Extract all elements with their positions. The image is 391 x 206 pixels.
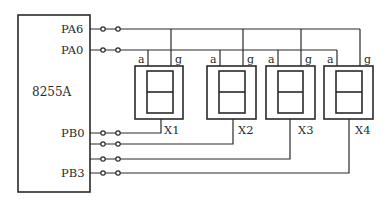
circuit-diagram: 8255A PA6 PA0 PB0 PB3 [0, 0, 391, 206]
terminal-circle-icon [116, 48, 120, 52]
pin-label-a: a [327, 53, 334, 66]
pin-label-a: a [138, 53, 145, 66]
pin-label-g: g [247, 53, 254, 66]
chip-label: 8255A [32, 85, 72, 99]
port-label-pa6: PA6 [61, 22, 83, 36]
chip-8255a: 8255A PA6 PA0 PB0 PB3 [18, 15, 90, 192]
display-label: X1 [164, 123, 180, 137]
terminal-circle-icon [101, 171, 105, 175]
terminal-circle-icon [101, 131, 105, 135]
port-label-pb3: PB3 [61, 166, 85, 180]
terminal-circle-icon [116, 157, 120, 161]
terminal-circle-icon [101, 27, 105, 31]
display-label: X3 [298, 123, 314, 137]
terminal-circle-icon [116, 131, 120, 135]
pin-label-a: a [210, 53, 217, 66]
display-label: X2 [238, 123, 254, 137]
pin-label-a: a [268, 53, 275, 66]
display-x1: a g X1 [135, 53, 183, 137]
pin-label-g: g [175, 53, 182, 66]
terminal-circle-icon [101, 142, 105, 146]
terminal-circle-icon [101, 48, 105, 52]
terminal-circle-icon [116, 27, 120, 31]
wire-pb0-x1 [90, 119, 161, 133]
port-label-pb0: PB0 [61, 126, 85, 140]
terminal-circle-icon [116, 142, 120, 146]
pin-label-g: g [364, 53, 371, 66]
display-x2: a g X2 [207, 53, 256, 137]
pin-label-g: g [305, 53, 312, 66]
terminal-circle-icon [116, 171, 120, 175]
wire-pb2-x3 [90, 119, 290, 159]
port-label-pa0: PA0 [61, 43, 83, 57]
display-label: X4 [355, 123, 371, 137]
terminal-circle-icon [101, 157, 105, 161]
